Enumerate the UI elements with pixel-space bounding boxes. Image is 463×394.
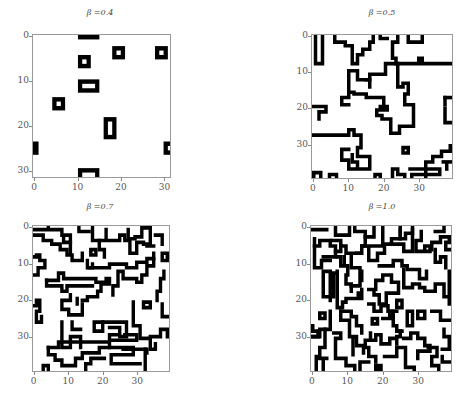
domain-wall <box>86 358 105 371</box>
domain-wall <box>372 318 377 323</box>
domain-wall <box>114 48 123 57</box>
domain-wall <box>80 82 97 91</box>
panel-title: β =1.0 <box>342 202 422 211</box>
x-tick-mark <box>347 372 348 375</box>
domain-wall <box>432 237 450 250</box>
x-tick-label: 0 <box>26 183 42 192</box>
y-tick-mark <box>29 171 32 172</box>
y-tick-mark <box>29 227 32 228</box>
domain-wall <box>43 366 48 371</box>
domain-wall <box>316 35 323 64</box>
domain-wall <box>155 235 162 244</box>
y-tick-label: 20 <box>293 295 307 304</box>
domain-wall <box>397 300 402 307</box>
domain-wall <box>62 295 82 315</box>
y-tick-mark <box>29 81 32 82</box>
x-tick-mark <box>348 179 349 182</box>
domain-wall <box>33 255 45 275</box>
domain-wall <box>80 35 97 37</box>
heatmap-image <box>33 35 170 177</box>
panel-title: β =0.7 <box>60 202 140 211</box>
y-tick-mark <box>29 264 32 265</box>
x-tick-label: 10 <box>340 184 356 193</box>
domain-wall <box>362 275 399 304</box>
x-tick-label: 0 <box>305 184 321 193</box>
y-tick-mark <box>307 227 310 228</box>
domain-wall <box>80 170 97 177</box>
x-tick-mark <box>384 179 385 182</box>
domain-wall <box>336 226 350 235</box>
y-tick-mark <box>308 108 311 109</box>
x-tick-mark <box>383 372 384 375</box>
plot-area <box>32 225 170 372</box>
y-tick-label: 10 <box>15 76 29 85</box>
domain-wall <box>418 311 425 318</box>
domain-wall <box>393 169 405 178</box>
y-tick-label: 0 <box>293 222 307 231</box>
domain-wall <box>400 226 412 239</box>
x-tick-mark <box>137 372 138 375</box>
domain-wall <box>320 313 325 318</box>
domain-wall <box>397 331 430 358</box>
domain-wall <box>162 253 167 260</box>
y-tick-label: 30 <box>294 140 308 149</box>
x-tick-label: 30 <box>411 184 427 193</box>
y-tick-mark <box>308 36 311 37</box>
x-tick-mark <box>34 178 35 181</box>
x-tick-mark <box>164 178 165 181</box>
domain-wall <box>157 271 164 300</box>
domain-wall <box>442 329 449 349</box>
domain-wall <box>385 347 415 371</box>
domain-wall <box>380 35 387 39</box>
domain-wall <box>313 326 318 337</box>
x-tick-mark <box>418 372 419 375</box>
x-tick-label: 20 <box>95 377 111 386</box>
y-tick-label: 20 <box>294 103 308 112</box>
x-tick-label: 20 <box>113 183 129 192</box>
domain-wall <box>91 250 96 255</box>
domain-wall <box>435 250 446 268</box>
domain-wall <box>408 35 422 42</box>
heatmap-image <box>33 226 169 371</box>
y-tick-label: 10 <box>15 259 29 268</box>
y-tick-mark <box>29 300 32 301</box>
y-tick-mark <box>307 337 310 338</box>
domain-wall <box>54 99 63 108</box>
x-tick-label: 20 <box>376 184 392 193</box>
plot-area <box>32 34 171 178</box>
domain-wall <box>314 173 321 178</box>
domain-wall <box>33 300 42 322</box>
y-tick-mark <box>307 300 310 301</box>
x-tick-mark <box>103 372 104 375</box>
x-tick-mark <box>419 179 420 182</box>
domain-wall <box>35 235 83 260</box>
domain-wall <box>416 231 430 251</box>
panel-title: β =0.4 <box>60 8 140 17</box>
y-tick-label: 10 <box>294 67 308 76</box>
x-tick-label: 10 <box>60 377 76 386</box>
y-tick-label: 0 <box>15 31 29 40</box>
x-tick-mark <box>121 178 122 181</box>
plot-area <box>310 225 452 372</box>
x-tick-label: 10 <box>339 377 355 386</box>
domain-wall <box>157 48 166 57</box>
heatmap-image <box>312 35 452 178</box>
x-tick-label: 0 <box>26 377 42 386</box>
y-tick-label: 20 <box>15 295 29 304</box>
domain-wall <box>396 58 452 63</box>
domain-wall <box>376 366 381 370</box>
domain-wall <box>407 311 412 326</box>
plot-area <box>311 34 453 179</box>
y-tick-mark <box>29 36 32 37</box>
domain-wall <box>342 71 349 105</box>
y-tick-label: 30 <box>293 332 307 341</box>
domain-wall <box>442 357 451 362</box>
domain-wall <box>33 144 36 153</box>
domain-wall <box>312 130 370 169</box>
domain-wall <box>89 259 154 268</box>
domain-wall <box>70 226 89 253</box>
domain-wall <box>383 311 402 331</box>
y-tick-label: 20 <box>15 121 29 130</box>
domain-wall <box>349 71 370 87</box>
y-tick-label: 0 <box>294 31 308 40</box>
